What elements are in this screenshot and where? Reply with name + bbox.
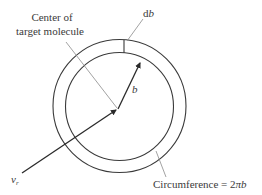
center-label-line1: Center of [31,11,73,23]
relative-velocity-label: vr [11,173,19,187]
relative-velocity-arrow [22,110,116,173]
db-leader-line [127,19,143,41]
circumference-b: b [241,178,247,190]
circumference-label: Circumference = 2πb [153,178,247,190]
center-leader-line [66,42,117,108]
impact-parameter-label: b [132,83,138,95]
db-label-b: b [149,7,155,19]
collision-cross-section-diagram: Center of target molecule db b vr Circum… [0,0,262,195]
center-label-line2: target molecule [16,25,84,37]
circumference-prefix: Circumference = 2 [153,178,236,190]
relative-velocity-subscript: r [16,179,19,187]
db-label: db [143,7,155,19]
